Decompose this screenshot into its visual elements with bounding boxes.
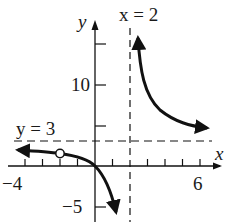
- x-tick-label-6: 6: [193, 173, 203, 194]
- y-axis: [92, 20, 99, 222]
- horizontal-asymptote-label: y = 3: [16, 118, 55, 139]
- x-axis-label: x: [214, 143, 224, 164]
- y-axis-label: y: [76, 11, 87, 32]
- y-axis-ticks: [95, 44, 106, 207]
- vertical-asymptote-label: x = 2: [119, 4, 158, 25]
- y-tick-label-neg5: −5: [62, 196, 82, 217]
- right-branch-curve: [138, 38, 207, 128]
- hole-open-point: [56, 149, 64, 157]
- y-tick-label-10: 10: [71, 74, 90, 95]
- rational-function-graph: y x x = 2 y = 3 −4 6 10 −5: [0, 0, 230, 222]
- x-axis-ticks: [25, 159, 200, 166]
- x-tick-label-neg4: −4: [2, 173, 23, 194]
- x-axis: [8, 163, 222, 170]
